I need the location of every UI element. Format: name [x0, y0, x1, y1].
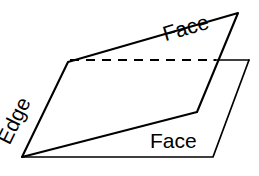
diagram-canvas — [0, 0, 259, 176]
geometry-diagram: Face Face Edge — [0, 0, 259, 176]
label-face-bottom: Face — [150, 129, 197, 153]
